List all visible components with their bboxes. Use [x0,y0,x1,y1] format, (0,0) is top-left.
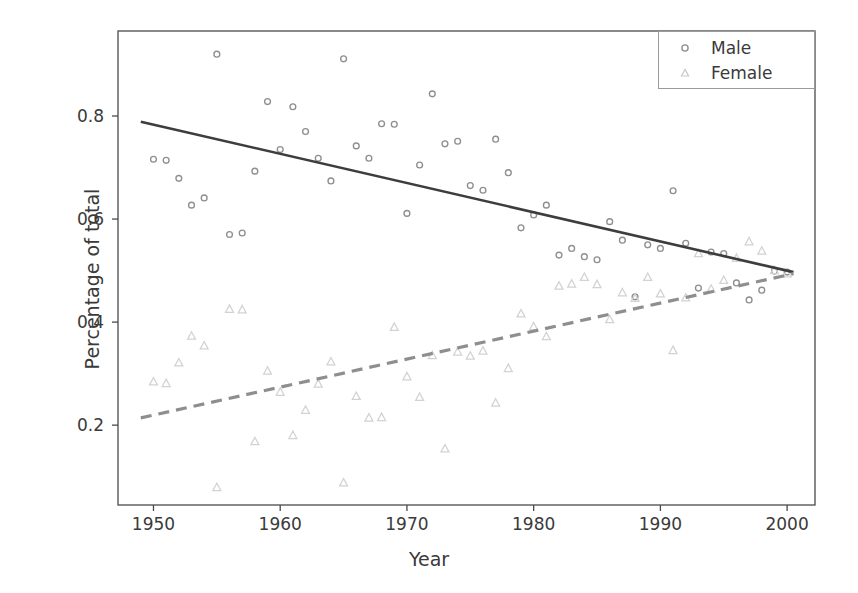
data-point [594,257,600,263]
data-point [239,230,245,236]
legend-item-male: Male [659,36,816,60]
data-point [504,364,512,371]
data-point [416,393,424,400]
data-point [303,129,309,135]
data-point [379,121,385,127]
data-point [720,276,728,283]
data-point [238,305,246,312]
y-tick-label: 0.6 [62,209,104,229]
data-point [289,431,297,438]
data-point [745,237,753,244]
data-point [213,483,221,490]
data-point [314,380,322,387]
data-point [175,359,183,366]
series-female [150,237,792,490]
data-point [264,367,272,374]
data-point [315,155,321,161]
data-point [365,414,373,421]
data-point [645,242,651,248]
x-tick-label: 2000 [765,514,808,534]
data-point [492,399,500,406]
x-tick-label: 1990 [639,514,682,534]
data-point [656,289,664,296]
legend-label-male: Male [711,38,751,58]
data-point [252,168,258,174]
legend-label-female: Female [711,63,772,83]
data-point [759,287,765,293]
data-point [696,285,702,291]
data-point [227,232,233,238]
data-point [505,170,511,176]
data-point [277,147,283,153]
data-point [378,413,386,420]
data-point [670,188,676,194]
data-point [758,247,766,254]
data-point [290,104,296,110]
series-male [151,51,790,303]
data-point [455,138,461,144]
x-axis-label: Year [0,548,858,570]
data-point [403,372,411,379]
data-point [340,479,348,486]
data-point [188,332,196,339]
data-point [353,143,359,149]
data-point [441,445,449,452]
data-point [328,178,334,184]
data-point [530,322,538,329]
data-point [265,99,271,105]
data-point [644,273,652,280]
data-point [201,195,207,201]
data-point [176,175,182,181]
data-point [518,225,524,231]
y-tick-label: 0.4 [62,312,104,332]
x-tick-label: 1970 [385,514,428,534]
trend-line-male [141,122,794,272]
scatter-chart-figure: Year Percentage of total 195019601970198… [0,0,858,593]
data-point [189,202,195,208]
data-point [669,346,677,353]
data-point [151,156,157,162]
data-point [429,91,435,97]
data-point [580,273,588,280]
data-point [276,388,284,395]
x-tick-label: 1960 [259,514,302,534]
x-tick-label: 1980 [512,514,555,534]
y-tick-label: 0.8 [62,106,104,126]
data-point [366,155,372,161]
data-point [214,51,220,57]
data-point [162,379,170,386]
data-point [390,323,398,330]
data-point [467,183,473,189]
data-point [555,282,563,289]
data-point [568,280,576,287]
data-point [480,187,486,193]
data-point [302,406,310,413]
data-point [404,210,410,216]
data-point [593,280,601,287]
data-point [683,240,689,246]
data-point [200,342,208,349]
data-point [466,352,474,359]
data-point [493,136,499,142]
data-point [163,157,169,163]
data-point [442,141,448,147]
x-tick-label: 1950 [132,514,175,534]
data-point [226,305,234,312]
legend: Male Female [658,31,815,89]
data-point [581,254,587,260]
data-point [327,357,335,364]
data-point [391,121,397,127]
data-point [251,437,259,444]
data-point [746,297,752,303]
data-point [543,202,549,208]
circle-marker-icon [659,42,711,54]
plot-frame [118,31,815,505]
data-point [517,310,525,317]
trend-line-female [141,274,794,418]
data-point [569,246,575,252]
data-point [150,378,158,385]
data-point [542,332,550,339]
data-point [341,56,347,62]
data-point [657,246,663,252]
data-point [556,252,562,258]
